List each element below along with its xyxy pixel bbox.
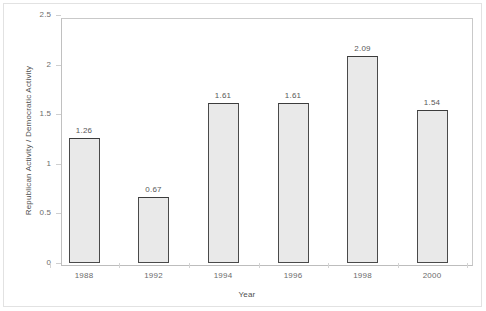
y-axis-tick-label: 2.5 — [7, 11, 51, 19]
bar-value-label: 1.26 — [54, 126, 114, 135]
bar-value-label: 1.61 — [193, 91, 253, 100]
x-axis-tick-label: 1998 — [333, 271, 393, 280]
plot-area — [61, 18, 473, 266]
y-axis-tick-mark — [56, 114, 61, 115]
bar-value-label: 1.54 — [402, 98, 462, 107]
x-axis-tick-mark — [328, 263, 329, 268]
bar-value-label: 1.61 — [263, 91, 323, 100]
x-axis-tick-mark — [50, 263, 51, 268]
x-axis-tick-label: 2000 — [402, 271, 462, 280]
bar-value-label: 0.67 — [124, 185, 184, 194]
y-axis-tick-label: 2 — [7, 61, 51, 69]
y-axis-tick-label: 0 — [7, 259, 51, 267]
x-axis-tick-label: 1992 — [124, 271, 184, 280]
y-axis-tick-mark — [56, 164, 61, 165]
bar-1996 — [278, 103, 309, 263]
bar-1992 — [138, 197, 169, 263]
x-axis-tick-label: 1994 — [193, 271, 253, 280]
bar-value-label: 2.09 — [333, 44, 393, 53]
x-axis-tick-label: 1988 — [54, 271, 114, 280]
x-axis-title: Year — [4, 290, 486, 299]
y-axis-tick-label: 1 — [7, 160, 51, 168]
x-axis-tick-label: 1996 — [263, 271, 323, 280]
y-axis-tick-mark — [56, 15, 61, 16]
x-axis-tick-mark — [189, 263, 190, 268]
bar-2000 — [417, 110, 448, 263]
x-axis-tick-mark — [467, 263, 468, 268]
chart-frame: Republican Activity / Democratic Activit… — [3, 3, 482, 307]
bar-1994 — [208, 103, 239, 263]
bar-1998 — [347, 56, 378, 263]
x-axis-tick-mark — [119, 263, 120, 268]
x-axis-tick-mark — [398, 263, 399, 268]
y-axis-tick-mark — [56, 65, 61, 66]
y-axis-tick-label: 0.5 — [7, 209, 51, 217]
y-axis-tick-mark — [56, 213, 61, 214]
x-axis-tick-mark — [259, 263, 260, 268]
y-axis-tick-label: 1.5 — [7, 110, 51, 118]
y-axis-tick-mark — [56, 263, 61, 264]
bar-1988 — [69, 138, 100, 263]
